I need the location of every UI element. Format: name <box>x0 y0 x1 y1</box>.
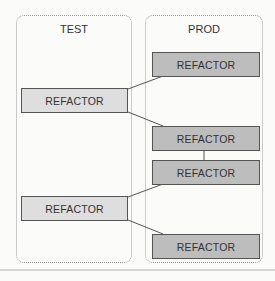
connector-test1-prod1 <box>128 76 163 89</box>
refactor-box-test-2: REFACTOR <box>21 196 128 221</box>
bottom-divider <box>0 269 275 271</box>
refactor-box-prod-3: REFACTOR <box>152 160 260 185</box>
refactor-box-test-1: REFACTOR <box>21 88 128 113</box>
refactor-box-prod-2: REFACTOR <box>152 126 260 151</box>
refactor-box-prod-1: REFACTOR <box>152 52 260 77</box>
connector-test1-prod2 <box>128 112 163 126</box>
refactor-box-prod-4: REFACTOR <box>152 234 260 259</box>
connector-test2-prod4 <box>128 220 163 234</box>
connector-test2-prod3 <box>128 184 163 197</box>
